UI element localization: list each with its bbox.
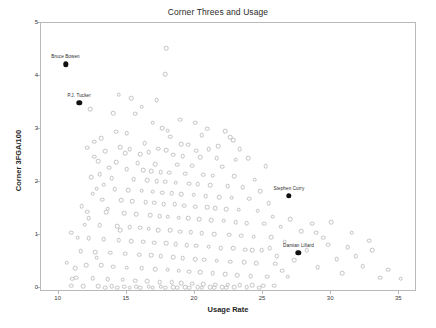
data-point (184, 243, 189, 248)
data-point (225, 184, 230, 189)
data-point-label: Bruce Bowen (51, 54, 79, 59)
data-point (266, 201, 271, 206)
data-point (138, 285, 143, 290)
data-point (168, 228, 173, 233)
data-point (118, 228, 123, 233)
data-point (210, 271, 215, 276)
data-point (174, 242, 179, 247)
data-point (187, 181, 192, 186)
data-point (398, 276, 403, 281)
data-point (92, 140, 97, 145)
data-point (120, 277, 125, 282)
data-point (73, 266, 78, 271)
data-point (194, 244, 199, 249)
data-point (127, 147, 132, 152)
data-point (190, 163, 195, 168)
highlighted-data-point (286, 193, 291, 198)
data-point (119, 198, 124, 203)
data-point (153, 162, 158, 167)
data-point (74, 275, 79, 280)
data-point (278, 224, 283, 229)
x-tick-mark (262, 291, 263, 294)
data-point (127, 285, 132, 290)
data-point (108, 250, 113, 255)
data-point (86, 236, 91, 241)
data-point (182, 203, 187, 208)
data-point (268, 246, 273, 251)
data-point (114, 160, 119, 165)
data-point (146, 150, 151, 155)
data-point (95, 255, 100, 260)
data-point (216, 144, 221, 149)
data-point (223, 129, 228, 134)
data-point (231, 246, 236, 251)
data-point (234, 158, 239, 163)
data-point (171, 152, 176, 157)
y-tick-label: 0 (32, 284, 38, 290)
data-point (140, 188, 145, 193)
data-point (100, 197, 105, 202)
data-point (110, 176, 115, 181)
data-point (205, 205, 210, 210)
data-point (321, 236, 326, 241)
data-point (116, 238, 121, 243)
x-tick-label: 30 (327, 295, 334, 301)
data-point (160, 126, 165, 131)
data-point (69, 230, 74, 235)
data-point (149, 253, 154, 258)
data-point (178, 229, 183, 234)
data-point (145, 279, 150, 284)
data-point (265, 274, 270, 279)
data-point (217, 195, 222, 200)
data-point (86, 216, 91, 221)
data-point (155, 98, 160, 103)
data-point (85, 145, 90, 150)
plot-area: Bruce BowenP.J. TuckerStephen CurryDamia… (40, 22, 416, 291)
data-point (85, 210, 90, 215)
x-tick-label: 25 (259, 295, 266, 301)
data-point (111, 111, 116, 116)
data-point (111, 264, 116, 269)
data-point (137, 253, 142, 258)
data-point (127, 225, 132, 230)
data-point (198, 270, 203, 275)
data-point (78, 249, 83, 254)
x-tick-mark (126, 291, 127, 294)
data-point (224, 207, 229, 212)
data-point (179, 192, 184, 197)
y-axis-label: Corner 3FGA/100 (14, 91, 23, 231)
data-point (219, 246, 224, 251)
data-point (81, 284, 86, 289)
data-point (125, 167, 130, 172)
data-point (326, 242, 331, 247)
data-point (163, 72, 168, 77)
highlighted-data-point (296, 250, 301, 255)
data-point (150, 120, 155, 125)
data-point (205, 126, 210, 131)
data-point (155, 179, 160, 184)
data-point (349, 230, 354, 235)
data-point (176, 215, 181, 220)
data-point (262, 221, 267, 226)
data-point (96, 159, 101, 164)
data-point (145, 178, 150, 183)
data-point (97, 172, 102, 177)
data-point (194, 149, 199, 154)
data-point (186, 142, 191, 147)
data-point (198, 155, 203, 160)
data-point (329, 220, 334, 225)
data-point (209, 218, 214, 223)
data-point (97, 223, 102, 228)
data-point (105, 277, 110, 282)
data-point (292, 258, 297, 263)
data-point (175, 285, 180, 290)
x-tick-label: 20 (191, 295, 198, 301)
data-point (144, 200, 149, 205)
data-point (257, 285, 262, 290)
data-point (101, 183, 106, 188)
data-point (165, 214, 170, 219)
data-point (193, 257, 198, 262)
data-point (103, 285, 108, 290)
data-point (197, 217, 202, 222)
data-point (133, 279, 138, 284)
